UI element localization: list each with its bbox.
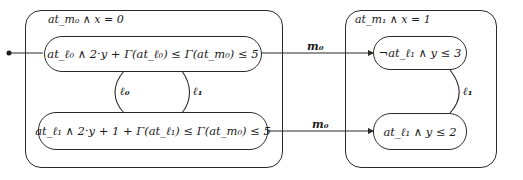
state-node-n2: at_ℓ₁ ∧ 2·y + 1 + Γ(at_ℓ₁) ≤ Γ(at_m₀) ≤ … [38, 112, 268, 150]
container-m0-label: at_m₀ ∧ x = 0 [48, 13, 124, 26]
state-node-n4: at_ℓ₁ ∧ y ≤ 2 [373, 113, 467, 150]
edge-label-m0-top: m₀ [307, 40, 323, 53]
edge-label-l1-left: ℓ₁ [193, 85, 203, 98]
edge-label-l1-right: ℓ₁ [463, 85, 473, 98]
edge-label-m0-bottom: m₀ [312, 118, 328, 131]
container-m1-label: at_m₁ ∧ x = 1 [355, 13, 431, 26]
edge-label-l0: ℓ₀ [120, 85, 130, 98]
state-node-n3: ¬at_ℓ₁ ∧ y ≤ 3 [373, 36, 467, 70]
state-node-n1: at_ℓ₀ ∧ 2·y + Γ(at_ℓ₀) ≤ Γ(at_m₀) ≤ 5 [44, 36, 262, 72]
